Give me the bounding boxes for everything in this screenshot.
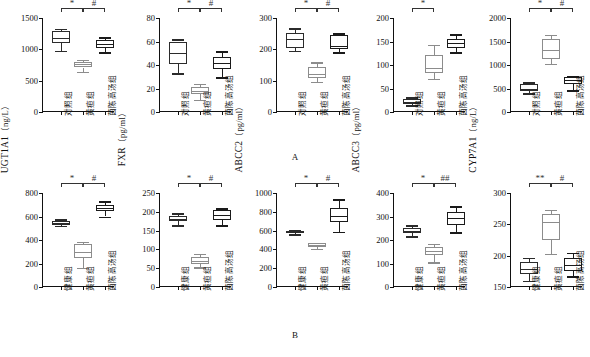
bracket-left bbox=[200, 183, 201, 187]
y-tick bbox=[273, 193, 277, 194]
y-tick bbox=[39, 240, 43, 241]
y-tick-label: 1000 bbox=[489, 60, 506, 70]
plot-area: 0100200300对照组黄疸组茵陈高汤组*# bbox=[276, 18, 344, 112]
bracket-left bbox=[83, 8, 84, 12]
x-group-label: 黄疸组 bbox=[204, 91, 212, 116]
cap-lower bbox=[172, 225, 184, 227]
y-tick-label: 200 bbox=[376, 235, 389, 245]
bracket-right bbox=[572, 8, 573, 12]
median-line bbox=[191, 261, 209, 262]
bracket-left bbox=[61, 183, 62, 187]
cap-upper bbox=[311, 62, 323, 63]
cap-lower bbox=[99, 52, 111, 54]
significance-bracket: * bbox=[412, 4, 434, 14]
significance-bracket: * bbox=[529, 4, 551, 14]
x-group-label: 茵陈高汤组 bbox=[226, 250, 234, 292]
cap-upper bbox=[545, 210, 557, 211]
y-tick bbox=[156, 249, 160, 250]
chart-panel-a-abcc3: ABCC3（pg/ml）050100150200对照组黄疸组茵陈高汤组* bbox=[351, 0, 469, 160]
y-tick-label: 200 bbox=[259, 263, 272, 273]
x-group-label: 健康组 bbox=[182, 266, 190, 291]
y-tick bbox=[507, 256, 511, 257]
significance-mark: * bbox=[412, 0, 434, 8]
bracket-bar bbox=[412, 183, 434, 184]
bracket-bar bbox=[200, 8, 222, 9]
bracket-bar bbox=[295, 183, 317, 184]
bracket-bar bbox=[61, 183, 83, 184]
y-tick-label: 250 bbox=[142, 188, 155, 198]
y-tick-label: 200 bbox=[142, 207, 155, 217]
significance-bracket: * bbox=[61, 4, 83, 14]
y-tick bbox=[390, 193, 394, 194]
median-line bbox=[52, 223, 70, 224]
y-tick bbox=[507, 42, 511, 43]
y-tick bbox=[390, 18, 394, 19]
median-line bbox=[213, 215, 231, 216]
y-tick bbox=[507, 89, 511, 90]
y-tick-label: 600 bbox=[259, 226, 272, 236]
bracket-bar bbox=[434, 183, 456, 184]
x-group-label: 黄疸组 bbox=[87, 266, 95, 291]
cap-lower bbox=[428, 79, 440, 80]
y-tick bbox=[273, 112, 277, 113]
cap-lower bbox=[333, 52, 345, 54]
y-tick bbox=[273, 249, 277, 250]
y-tick bbox=[273, 81, 277, 82]
y-tick bbox=[273, 49, 277, 50]
y-tick bbox=[156, 193, 160, 194]
bracket-bar bbox=[178, 8, 200, 9]
whisker-lower bbox=[83, 258, 84, 269]
y-tick-label: 1000 bbox=[21, 44, 38, 54]
bracket-left bbox=[200, 8, 201, 12]
x-group-label: 黄疸组 bbox=[555, 91, 563, 116]
x-group-label: 黄疸组 bbox=[321, 266, 329, 291]
y-tick-label: 500 bbox=[493, 84, 506, 94]
y-tick-label: 500 bbox=[25, 76, 38, 86]
bracket-left bbox=[551, 183, 552, 187]
y-axis-title: UGT1A1（ng/L） bbox=[0, 89, 12, 185]
cap-lower bbox=[216, 225, 228, 227]
panel-row-a: UGT1A1（ng/L）050010001500对照组黄疸组茵陈高汤组*#FXR… bbox=[0, 0, 590, 160]
significance-bracket: # bbox=[317, 4, 339, 14]
y-tick-label: 150 bbox=[142, 226, 155, 236]
significance-bracket: * bbox=[178, 4, 200, 14]
box-iqr bbox=[330, 35, 348, 49]
y-tick-label: 1500 bbox=[21, 13, 38, 23]
cap-lower bbox=[77, 72, 89, 73]
y-tick-label: 600 bbox=[25, 212, 38, 222]
y-tick-label: 400 bbox=[376, 188, 389, 198]
y-tick bbox=[156, 231, 160, 232]
y-tick-label: 0 bbox=[34, 107, 38, 117]
y-tick bbox=[39, 112, 43, 113]
bracket-right bbox=[104, 183, 105, 187]
median-line bbox=[330, 46, 348, 47]
y-tick bbox=[156, 42, 160, 43]
significance-bracket: # bbox=[200, 179, 222, 189]
bracket-bar bbox=[551, 8, 573, 9]
x-group-label: 对照组 bbox=[416, 91, 424, 116]
bracket-bar bbox=[317, 8, 339, 9]
y-axis-unit: （ng/L） bbox=[0, 101, 10, 136]
plot-area: 02004006008001000健康组黄疸组茵陈高汤组*# bbox=[276, 193, 344, 287]
y-tick bbox=[273, 231, 277, 232]
bracket-left bbox=[551, 8, 552, 12]
y-tick-label: 800 bbox=[259, 207, 272, 217]
chart-panel-a-ugt1a1: UGT1A1（ng/L）050010001500对照组黄疸组茵陈高汤组*# bbox=[0, 0, 118, 160]
median-line bbox=[403, 231, 421, 232]
whisker-lower bbox=[61, 43, 62, 51]
cap-upper bbox=[172, 39, 184, 41]
cap-lower bbox=[55, 51, 67, 53]
chart-panel-a-abcc2: ABCC2（pg/ml）0100200300对照组黄疸组茵陈高汤组*# bbox=[234, 0, 352, 160]
chart-panel-b-fxr: FXR（pg/ml）050100150200250健康组黄疸组茵陈高汤组*# bbox=[117, 175, 235, 335]
significance-bracket: * bbox=[412, 179, 434, 189]
cap-lower bbox=[545, 254, 557, 255]
y-axis-title: ABCC3（pg/ml） bbox=[349, 0, 363, 10]
bracket-bar bbox=[178, 183, 200, 184]
x-group-label: 对照组 bbox=[533, 91, 541, 116]
cap-lower bbox=[450, 232, 462, 234]
y-tick-label: 1500 bbox=[489, 37, 506, 47]
y-tick-label: 40 bbox=[147, 60, 156, 70]
median-line bbox=[52, 38, 70, 39]
box-iqr bbox=[286, 33, 304, 48]
whisker-upper bbox=[434, 45, 435, 54]
